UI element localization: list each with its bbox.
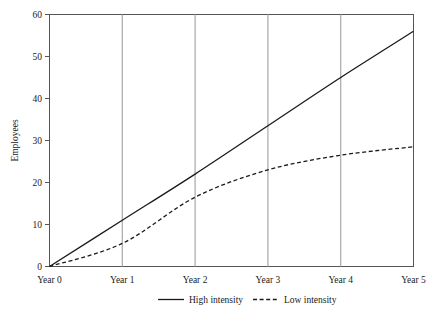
xtick-label-year-0: Year 0 xyxy=(37,275,62,285)
xtick-label-year-2: Year 2 xyxy=(183,275,208,285)
ytick-label-10: 10 xyxy=(33,220,43,230)
ytick-label-60: 60 xyxy=(33,10,43,20)
xtick-label-year-4: Year 4 xyxy=(328,275,353,285)
legend-label-high-intensity: High intensity xyxy=(189,295,243,305)
employees-growth-line-chart: 0 10 20 30 40 50 60 Employees Year 0 Yea… xyxy=(0,0,440,321)
ytick-label-20: 20 xyxy=(33,178,43,188)
ytick-label-50: 50 xyxy=(33,52,43,62)
xtick-label-year-3: Year 3 xyxy=(256,275,281,285)
ytick-label-40: 40 xyxy=(33,94,43,104)
ytick-label-0: 0 xyxy=(37,262,42,272)
chart-container: 0 10 20 30 40 50 60 Employees Year 0 Yea… xyxy=(0,0,440,321)
legend-label-low-intensity: Low intensity xyxy=(284,295,337,305)
ytick-label-30: 30 xyxy=(33,136,43,146)
chart-background xyxy=(0,0,440,321)
xtick-label-year-5: Year 5 xyxy=(401,275,426,285)
y-axis-title: Employees xyxy=(10,119,20,162)
xtick-label-year-1: Year 1 xyxy=(110,275,135,285)
